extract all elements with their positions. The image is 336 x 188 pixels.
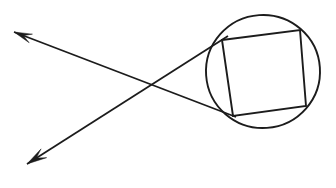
geometry-canvas [0,0,336,188]
canvas-background [0,0,336,188]
geometry-figure [0,0,336,188]
